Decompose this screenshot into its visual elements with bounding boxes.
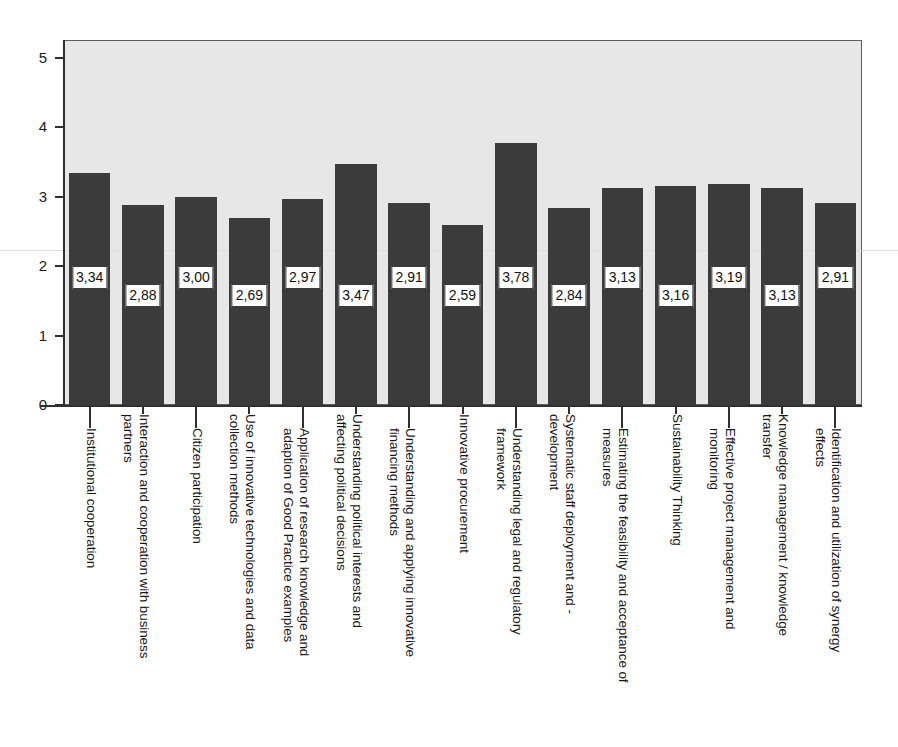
bar: 3,47 <box>335 41 377 405</box>
x-axis-category-label: Citizen participation <box>190 428 206 544</box>
category-label-line: Citizen participation <box>190 428 205 544</box>
category-label-stem <box>89 405 91 427</box>
bar: 2,59 <box>442 41 484 405</box>
bar-rect <box>708 184 750 405</box>
bar: 2,91 <box>815 41 857 405</box>
category-labels: Institutional cooperationInteraction and… <box>0 405 898 747</box>
category-label-line: Use of innovative technologies and data <box>243 414 258 650</box>
category-label-stem <box>462 405 464 413</box>
category-label-stem <box>302 405 304 427</box>
bar-value-label: 3,34 <box>72 266 107 289</box>
bar: 2,69 <box>229 41 271 405</box>
bar-rect <box>175 197 217 405</box>
category-label-stem <box>621 405 623 427</box>
category-label-line: Estimating the feasibility and acceptanc… <box>616 428 631 683</box>
bar-value-label: 3,78 <box>498 266 533 289</box>
bar-value-label: 2,91 <box>392 266 427 289</box>
category-label-line: Systematic staff deployment and - <box>563 414 578 614</box>
bar: 3,00 <box>175 41 217 405</box>
x-axis-category-label: Effective project management andmonitori… <box>707 428 738 629</box>
x-axis-category-label: Institutional cooperation <box>83 428 99 568</box>
y-axis-tick <box>55 335 64 337</box>
bar: 2,97 <box>282 41 324 405</box>
bar-chart: 543210 3,342,883,002,692,973,472,912,593… <box>0 0 898 747</box>
x-axis-category-label: Understanding legal and regulatoryframew… <box>494 428 525 635</box>
bar-value-label: 3,19 <box>711 266 746 289</box>
bar-value-label: 2,88 <box>125 284 160 307</box>
category-label-line: transfer <box>760 414 776 636</box>
bar-rect <box>815 203 857 405</box>
x-axis-category-label: Innovative procurement <box>456 414 472 553</box>
category-label-line: Institutional cooperation <box>84 428 99 568</box>
bar: 3,13 <box>761 41 803 405</box>
category-label-line: partners <box>121 414 137 658</box>
category-label-stem <box>142 405 144 413</box>
bar: 3,16 <box>655 41 697 405</box>
category-label-line: Sustainability Thinking <box>670 414 685 546</box>
category-label-line: measures <box>600 428 616 683</box>
category-label-line: Innovative procurement <box>457 414 472 553</box>
bar: 2,84 <box>548 41 590 405</box>
bar-value-label: 3,47 <box>338 284 373 307</box>
category-label-line: effects <box>813 428 829 652</box>
bar-value-label: 3,16 <box>658 284 693 307</box>
category-label-line: Understanding legal and regulatory <box>510 428 525 635</box>
y-axis-tick <box>55 196 64 198</box>
bar: 3,34 <box>69 41 111 405</box>
bar-value-label: 2,97 <box>285 266 320 289</box>
y-axis-tick <box>55 57 64 59</box>
x-axis-category-label: Interaction and cooperation with busines… <box>121 414 152 658</box>
bar-rect <box>602 188 644 405</box>
category-label-line: affecting political decisions <box>334 414 350 628</box>
category-label-stem <box>834 405 836 427</box>
category-label-line: Understanding and applying innovative <box>403 428 418 657</box>
category-label-stem <box>728 405 730 427</box>
x-axis-category-label: Estimating the feasibility and acceptanc… <box>600 428 631 683</box>
bar-value-label: 2,84 <box>551 284 586 307</box>
bar-value-label: 2,69 <box>232 284 267 307</box>
category-label-stem <box>568 405 570 413</box>
category-label-line: Knowledge management / knowledge <box>776 414 791 636</box>
category-label-stem <box>355 405 357 413</box>
category-label-stem <box>781 405 783 413</box>
bar-value-label: 2,91 <box>818 266 853 289</box>
category-label-line: Interaction and cooperation with busines… <box>137 414 152 658</box>
bar: 3,13 <box>602 41 644 405</box>
category-label-stem <box>248 405 250 413</box>
x-axis-category-label: Application of research knowledge andada… <box>281 428 312 656</box>
bar-rect <box>69 173 111 405</box>
category-label-line: Understanding political interests and <box>350 414 365 628</box>
bar-value-label: 3,13 <box>764 284 799 307</box>
x-axis-category-label: Systematic staff deployment and -develop… <box>547 414 578 614</box>
x-axis-category-label: Understanding political interests andaff… <box>334 414 365 628</box>
x-axis-category-label: Understanding and applying innovativefin… <box>387 428 418 657</box>
bar-rect <box>229 218 271 405</box>
bar: 2,88 <box>122 41 164 405</box>
category-label-line: framework <box>494 428 510 635</box>
bar: 3,19 <box>708 41 750 405</box>
y-axis-tick <box>55 126 64 128</box>
category-label-line: adaption of Good Practice examples <box>281 428 297 656</box>
category-label-line: collection methods <box>227 414 243 650</box>
bar: 3,78 <box>495 41 537 405</box>
category-label-stem <box>675 405 677 413</box>
bar-rect <box>442 225 484 405</box>
y-axis-tick-label: 1 <box>17 328 47 343</box>
bar-rect <box>282 199 324 405</box>
category-label-line: development <box>547 414 563 614</box>
y-axis-tick-label: 3 <box>17 189 47 204</box>
bar-value-label: 3,00 <box>179 266 214 289</box>
category-label-stem <box>195 405 197 427</box>
bars-layer: 3,342,883,002,692,973,472,912,593,782,84… <box>64 41 861 405</box>
category-label-line: monitoring <box>707 428 723 629</box>
y-axis-tick-label: 2 <box>17 258 47 273</box>
y-axis-tick-label: 4 <box>17 119 47 134</box>
bar-value-label: 3,13 <box>605 266 640 289</box>
x-axis-category-label: Identification and utilization of synerg… <box>813 428 844 652</box>
y-axis-tick <box>55 265 64 267</box>
y-axis-tick-label: 5 <box>17 50 47 65</box>
category-label-line: Effective project management and <box>723 428 738 629</box>
category-label-stem <box>408 405 410 427</box>
category-label-line: financing methods <box>387 428 403 657</box>
x-axis-category-label: Use of innovative technologies and datac… <box>227 414 258 650</box>
